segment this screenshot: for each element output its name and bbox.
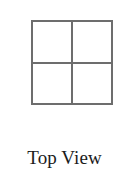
figure-container: Top View bbox=[0, 0, 129, 173]
figure-caption: Top View bbox=[0, 146, 129, 170]
grid-cell-bottom-left bbox=[33, 63, 72, 104]
top-view-grid-diagram bbox=[31, 20, 113, 105]
horizontal-divider-line bbox=[33, 62, 111, 64]
grid-cell-top-right bbox=[72, 22, 111, 63]
grid-cell-top-left bbox=[33, 22, 72, 63]
grid-cell-bottom-right bbox=[72, 63, 111, 104]
